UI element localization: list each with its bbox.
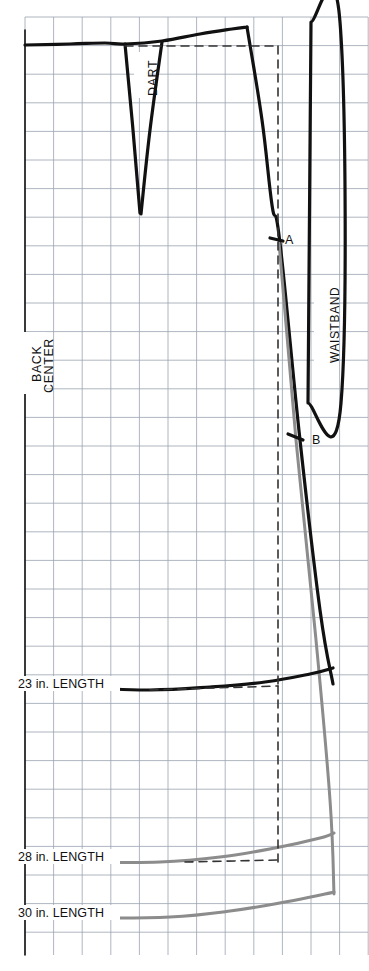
length-label-28: 28 in. LENGTH <box>18 851 104 864</box>
pattern-lines <box>25 0 345 955</box>
pattern-drawing <box>0 0 369 971</box>
length-label-23: 23 in. LENGTH <box>18 678 104 691</box>
graph-paper-grid <box>25 17 368 955</box>
pattern-draft-canvas: DART CENTER BACK WAISTBAND A B 23 in. LE… <box>0 0 369 971</box>
length-label-30: 30 in. LENGTH <box>18 907 104 920</box>
waistband-label: WAISTBAND <box>329 287 341 363</box>
dart-label: DART <box>147 60 160 96</box>
center-back-label-line2: BACK <box>31 346 44 382</box>
point-b-label: B <box>312 434 320 447</box>
pattern-line-waistline <box>25 27 247 45</box>
point-a-label: A <box>285 234 293 247</box>
center-back-label-line1: CENTER <box>43 338 56 393</box>
